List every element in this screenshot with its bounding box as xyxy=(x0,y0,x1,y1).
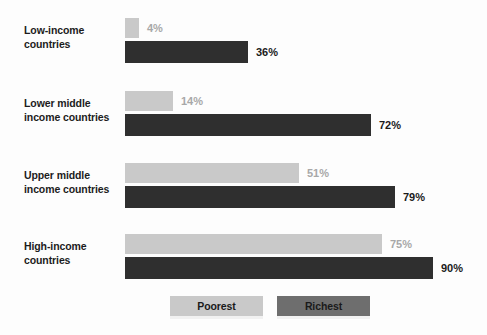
bar-value-poorest: 4% xyxy=(147,22,163,34)
bar-poorest[interactable] xyxy=(125,163,299,183)
bar-value-poorest: 75% xyxy=(390,238,412,250)
legend-label-poorest: Poorest xyxy=(197,300,235,312)
legend-item-poorest[interactable]: Poorest xyxy=(170,296,263,316)
chart-group-upper-middle-income: Upper middle income countries 51% 79% xyxy=(0,163,487,215)
category-label-line-2: countries xyxy=(24,38,124,52)
category-label-line-1: Lower middle xyxy=(24,97,124,111)
chart-group-high-income: High-income countries 75% 90% xyxy=(0,234,487,286)
bar-richest[interactable] xyxy=(125,257,433,279)
chart-group-low-income: Low-income countries 4% 36% xyxy=(0,18,487,70)
category-label-line-2: countries xyxy=(24,254,124,268)
legend-item-richest[interactable]: Richest xyxy=(277,296,370,316)
bar-chart: Low-income countries 4% 36% Lower middle… xyxy=(0,0,487,335)
category-label-low-income: Low-income countries xyxy=(24,24,124,51)
chart-legend: Poorest Richest xyxy=(0,296,487,318)
bar-row-poorest: 75% xyxy=(125,234,467,254)
bar-row-richest: 36% xyxy=(125,41,467,63)
bar-value-richest: 90% xyxy=(441,262,463,274)
category-label-line-1: Low-income xyxy=(24,24,124,38)
bar-value-richest: 72% xyxy=(379,119,401,131)
chart-group-lower-middle-income: Lower middle income countries 14% 72% xyxy=(0,91,487,143)
category-label-upper-middle-income: Upper middle income countries xyxy=(24,169,124,196)
bar-richest[interactable] xyxy=(125,186,395,208)
bar-richest[interactable] xyxy=(125,41,248,63)
bar-richest[interactable] xyxy=(125,114,371,136)
category-label-lower-middle-income: Lower middle income countries xyxy=(24,97,124,124)
bar-row-poorest: 14% xyxy=(125,91,467,111)
bar-value-richest: 36% xyxy=(256,46,278,58)
bar-value-richest: 79% xyxy=(403,191,425,203)
legend-shadow-richest xyxy=(277,316,370,319)
bar-poorest[interactable] xyxy=(125,91,173,111)
category-label-line-1: Upper middle xyxy=(24,169,124,183)
bar-value-poorest: 51% xyxy=(307,167,329,179)
bar-row-richest: 79% xyxy=(125,186,467,208)
bar-row-richest: 72% xyxy=(125,114,467,136)
bar-row-poorest: 4% xyxy=(125,18,467,38)
bar-row-poorest: 51% xyxy=(125,163,467,183)
bar-value-poorest: 14% xyxy=(181,95,203,107)
category-label-line-2: income countries xyxy=(24,111,124,125)
legend-shadow-poorest xyxy=(170,316,263,319)
bar-poorest[interactable] xyxy=(125,234,382,254)
bar-poorest[interactable] xyxy=(125,18,139,38)
legend-label-richest: Richest xyxy=(305,300,342,312)
category-label-high-income: High-income countries xyxy=(24,240,124,267)
category-label-line-2: income countries xyxy=(24,183,124,197)
category-label-line-1: High-income xyxy=(24,240,124,254)
bar-row-richest: 90% xyxy=(125,257,467,279)
